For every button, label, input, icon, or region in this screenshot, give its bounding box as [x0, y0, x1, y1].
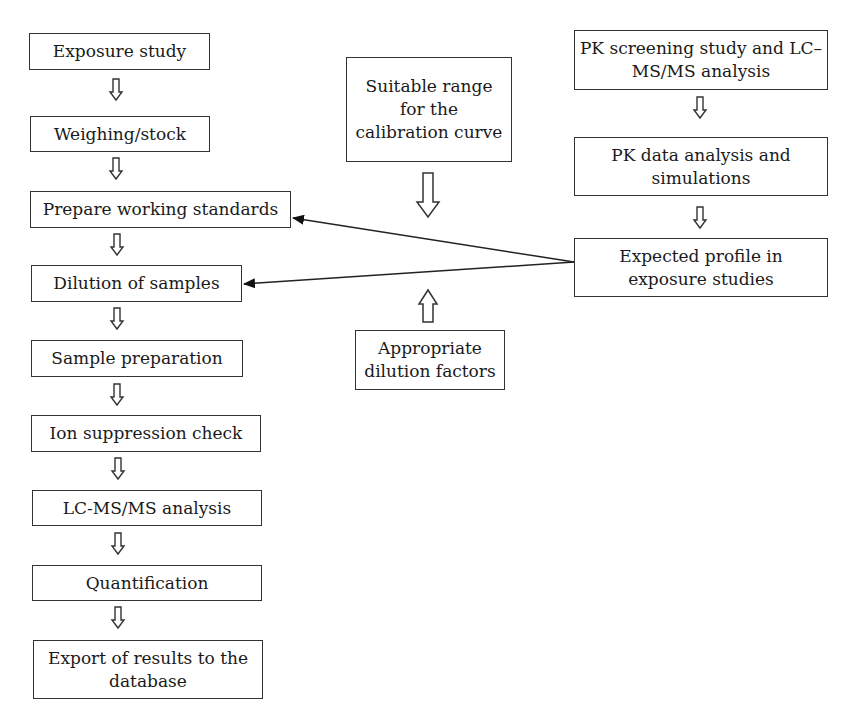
down-arrow-icon [112, 607, 124, 628]
connector-to-dilution-of-samples [244, 262, 574, 284]
down-arrow-icon [694, 97, 706, 118]
down-arrow-icon [694, 207, 706, 228]
down-arrow-icon [111, 234, 123, 255]
arrow-layer [0, 0, 854, 723]
connector-to-prepare-working-standards [293, 218, 574, 262]
down-arrow-icon [110, 79, 122, 100]
down-arrow-icon [112, 458, 124, 479]
dilution-up-arrow-icon [419, 290, 437, 322]
down-arrow-icon [111, 384, 123, 405]
down-arrow-icon [110, 158, 122, 179]
down-arrow-icon [111, 308, 123, 329]
calibration-down-arrow-icon [417, 173, 439, 217]
down-arrow-icon [112, 533, 124, 554]
